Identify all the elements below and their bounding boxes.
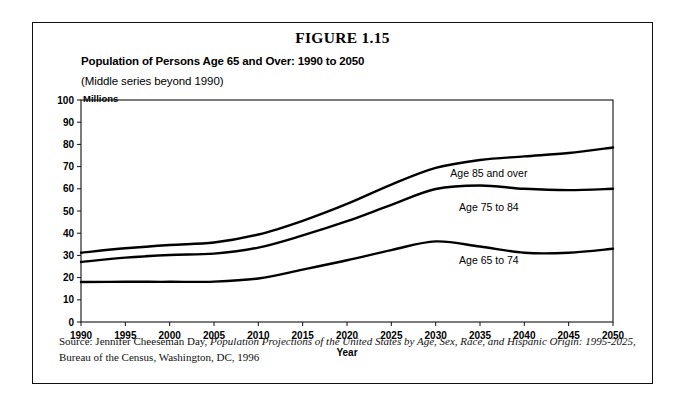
- y-tick-label: 40: [63, 228, 75, 239]
- series-line: [81, 185, 613, 262]
- source-prefix: Source: Jennifer Cheeseman Day,: [59, 335, 210, 347]
- plot-area: 0102030405060708090100 19901995200020052…: [33, 23, 654, 385]
- series-label: Age 65 to 74: [459, 254, 519, 266]
- y-tick-label: 20: [63, 272, 75, 283]
- y-axis-ticks: 0102030405060708090100: [57, 95, 81, 328]
- y-tick-label: 30: [63, 250, 75, 261]
- source-line-1: Source: Jennifer Cheeseman Day, Populati…: [59, 335, 636, 347]
- series-lines: [81, 148, 613, 283]
- y-tick-label: 60: [63, 183, 75, 194]
- x-axis-title: Year: [336, 347, 357, 358]
- series-line: [81, 241, 613, 282]
- series-line: [81, 148, 613, 253]
- y-tick-label: 70: [63, 161, 75, 172]
- y-tick-label: 10: [63, 294, 75, 305]
- y-tick-label: 100: [57, 95, 74, 106]
- series-label: Age 85 and over: [450, 167, 528, 179]
- y-tick-label: 80: [63, 139, 75, 150]
- y-tick-label: 90: [63, 117, 75, 128]
- source-line-2: Bureau of the Census, Washington, DC, 19…: [59, 351, 259, 363]
- y-tick-label: 0: [68, 317, 74, 328]
- line-chart-svg: 0102030405060708090100 19901995200020052…: [33, 23, 654, 385]
- source-suffix: ,: [633, 335, 636, 347]
- series-label: Age 75 to 84: [459, 201, 519, 213]
- source-title-italic: Population Projections of the United Sta…: [210, 335, 633, 347]
- y-tick-label: 50: [63, 206, 75, 217]
- figure-frame: FIGURE 1.15 Population of Persons Age 65…: [32, 22, 653, 384]
- plot-frame-rect: [81, 100, 613, 322]
